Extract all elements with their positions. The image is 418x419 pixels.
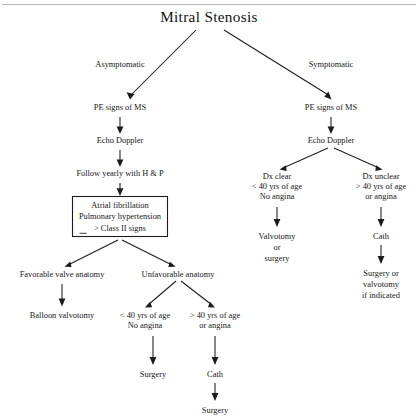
node-unfav-old-surgery: Surgery — [202, 406, 229, 415]
node-unfav-young-line2: No angina — [128, 321, 163, 330]
node-follow-yearly: Follow yearly with H & P — [76, 169, 164, 178]
arrowhead-left-echo-to-follow — [117, 159, 124, 167]
flowchart-canvas: Mitral Stenosis Asymptomatic Symptomatic… — [0, 0, 418, 419]
node-unfav-young-surgery: Surgery — [140, 370, 167, 379]
page-title: Mitral Stenosis — [160, 8, 258, 25]
arrowhead-dx-clear-to-outcome — [274, 219, 281, 227]
node-favorable-valve-anatomy: Favorable valve anatomy — [20, 270, 105, 279]
arrowhead-favorable-to-balloon — [59, 299, 66, 307]
edge-right-echo-to-dx-clear — [283, 148, 328, 168]
node-unfav-old-line2: or angina — [199, 321, 231, 330]
arrowhead-unfav-old-to-cath — [212, 357, 219, 365]
arrowhead-unfav-young-to-surgery — [150, 357, 157, 365]
node-dx-unclear-cath: Cath — [373, 232, 390, 241]
node-dx-unclear-line1: Dx unclear — [363, 172, 400, 181]
label-asymptomatic: Asymptomatic — [95, 60, 145, 69]
node-dx-unclear-line3: or angina — [365, 192, 397, 201]
node-unfav-old-cath: Cath — [207, 370, 224, 379]
arrowhead-right-pe-to-echo — [328, 126, 335, 134]
arrowhead-dx-unclear-to-cath — [378, 219, 385, 227]
arrowhead-criteria-to-unfavorable — [168, 261, 175, 267]
node-unfav-old-line1: > 40 yrs of age — [190, 311, 241, 320]
arrowhead-criteria-to-favorable — [65, 261, 72, 267]
node-dx-clear-outcome-line3: surgery — [265, 254, 291, 263]
node-dx-unclear-outcome-line2: valvotomy — [363, 280, 400, 289]
node-unfav-young-line1: < 40 yrs of age — [120, 311, 171, 320]
arrowhead-cath-to-surgery-left — [212, 393, 219, 401]
node-dx-clear-line2: < 40 yrs of age — [252, 182, 303, 191]
arrowhead-right-echo-to-dx-clear — [280, 165, 287, 171]
node-unfavorable-anatomy: Unfavorable anatomy — [142, 270, 216, 279]
arrowhead-left-pe-to-echo — [117, 126, 124, 134]
mitral-stenosis-flowchart: Mitral Stenosis Asymptomatic Symptomatic… — [0, 0, 418, 419]
node-left-echo-doppler: Echo Doppler — [97, 136, 144, 145]
criteria-line-pulmonary-hypertension: Pulmonary hypertension — [79, 212, 162, 221]
arrowhead-right-echo-to-dx-unclear — [375, 165, 382, 171]
edge-right-echo-to-dx-unclear — [334, 148, 379, 168]
node-balloon-valvotomy: Balloon valvotomy — [30, 311, 95, 320]
node-dx-clear-outcome-line1: Valvotomy — [259, 232, 297, 241]
node-dx-unclear-outcome-line1: Surgery or — [363, 269, 399, 278]
node-right-pe-signs: PE signs of MS — [305, 103, 358, 112]
edge-unfavorable-to-young — [148, 281, 176, 305]
node-dx-clear-outcome-line2: or — [274, 243, 281, 252]
node-dx-clear-line3: No angina — [260, 192, 295, 201]
node-dx-clear-line1: Dx clear — [263, 172, 292, 181]
arrowhead-cath-to-outcome-right — [378, 256, 385, 264]
node-dx-unclear-outcome-line3: if indicated — [362, 291, 401, 300]
edge-criteria-to-unfavorable — [122, 240, 172, 265]
criteria-line-atrial-fibrillation: Atrial fibrillation — [91, 201, 149, 210]
edge-criteria-to-favorable — [68, 240, 118, 265]
edge-unfavorable-to-old — [181, 281, 212, 305]
label-symptomatic: Symptomatic — [309, 60, 354, 69]
node-left-pe-signs: PE signs of MS — [94, 103, 147, 112]
node-dx-unclear-line2: > 40 yrs of age — [356, 182, 407, 191]
criteria-line-class-ii-signs: > Class II signs — [94, 224, 146, 233]
node-right-echo-doppler: Echo Doppler — [308, 136, 355, 145]
arrowhead-follow-to-criteria-box — [117, 188, 124, 196]
